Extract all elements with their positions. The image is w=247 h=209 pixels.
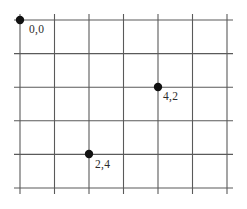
point-label-2: 2,4: [95, 159, 110, 171]
data-point-0-0: [16, 16, 24, 24]
diagram-canvas: 0,0 4,2 2,4: [0, 0, 247, 209]
point-label-1: 4,2: [163, 91, 178, 103]
point-label-0: 0,0: [29, 24, 44, 36]
data-point-2-4: [85, 150, 93, 158]
grid-vertical-lines: [20, 14, 227, 194]
data-point-4-2: [154, 83, 162, 91]
